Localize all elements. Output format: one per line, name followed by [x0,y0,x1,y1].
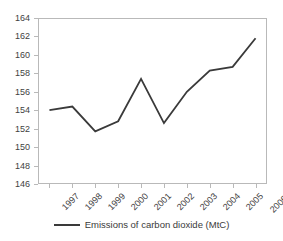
x-tick-label: 1999 [106,191,127,212]
y-tick-label: 146 [15,180,30,189]
legend-label-emissions: Emissions of carbon dioxide (MtC) [85,219,230,230]
y-tick-label: 148 [15,161,30,170]
x-axis: 1997199819992000200120022003200420052006… [38,184,267,224]
y-tick-label: 164 [15,14,30,23]
x-tick-label: 2004 [221,191,242,212]
series-line-emissions [49,38,255,131]
x-tick-mark [49,184,50,188]
x-tick-mark [233,184,234,188]
chart-legend: Emissions of carbon dioxide (MtC) [0,219,283,230]
y-tick-label: 162 [15,32,30,41]
x-tick-mark [164,184,165,188]
x-tick-mark [210,184,211,188]
x-tick-label: 2006* [267,191,283,215]
x-tick-mark [72,184,73,188]
y-tick-label: 160 [15,50,30,59]
x-tick-mark [95,184,96,188]
y-tick-label: 150 [15,143,30,152]
co2-emissions-line-chart: 146148150152154156158160162164 199719981… [0,0,283,241]
x-tick-mark [256,184,257,188]
legend-line-swatch [54,224,80,226]
x-tick-label: 2000 [129,191,150,212]
x-tick-label: 2001 [152,191,173,212]
x-tick-mark [187,184,188,188]
y-axis: 146148150152154156158160162164 [0,18,34,184]
x-tick-label: 2002 [175,191,196,212]
y-tick-label: 154 [15,106,30,115]
y-tick-label: 156 [15,87,30,96]
x-tick-label: 2003 [198,191,219,212]
x-tick-label: 2005 [244,191,265,212]
y-tick-label: 158 [15,69,30,78]
x-tick-label: 1997 [60,191,81,212]
x-tick-label: 1998 [83,191,104,212]
x-tick-mark [141,184,142,188]
y-tick-label: 152 [15,124,30,133]
x-tick-mark [118,184,119,188]
plot-series-layer [38,18,267,184]
